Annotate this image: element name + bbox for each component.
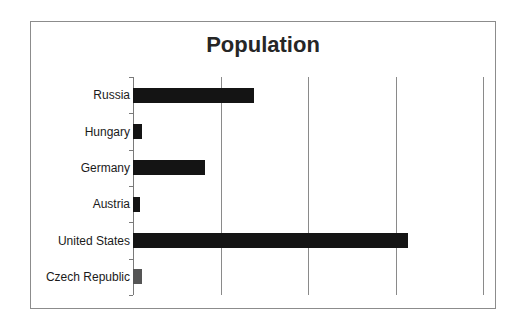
gridline xyxy=(396,77,397,295)
category-label: Russia xyxy=(93,88,130,102)
axis-tick xyxy=(129,77,133,78)
axis-tick xyxy=(129,150,133,151)
axis-tick xyxy=(129,113,133,114)
category-label: Austria xyxy=(93,197,130,211)
gridline xyxy=(483,77,484,295)
category-label: Hungary xyxy=(85,125,130,139)
chart-title: Population xyxy=(31,32,495,58)
gridline xyxy=(221,77,222,295)
bar-czech-republic xyxy=(133,269,142,284)
bar-hungary xyxy=(133,124,142,139)
bar-russia xyxy=(133,88,254,103)
y-axis xyxy=(133,77,134,295)
axis-tick xyxy=(129,259,133,260)
category-label: Germany xyxy=(81,161,130,175)
bar-austria xyxy=(133,197,140,212)
bar-germany xyxy=(133,160,205,175)
gridline xyxy=(308,77,309,295)
axis-tick xyxy=(129,295,133,296)
bar-united-states xyxy=(133,233,408,248)
plot-area xyxy=(133,77,483,295)
category-label: United States xyxy=(58,234,130,248)
axis-tick xyxy=(129,186,133,187)
axis-tick xyxy=(129,222,133,223)
category-label: Czech Republic xyxy=(46,270,130,284)
